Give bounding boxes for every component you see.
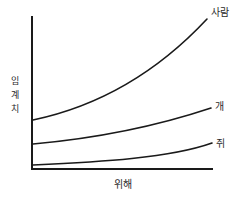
y-axis-label-char: 임 bbox=[9, 74, 21, 88]
curve-mouse bbox=[33, 143, 212, 165]
series-label-mouse: 쥐 bbox=[216, 139, 225, 149]
series-label-dog: 개 bbox=[215, 102, 224, 112]
series-label-human: 사람 bbox=[211, 8, 229, 18]
y-axis-label-char: 계 bbox=[9, 88, 21, 102]
threshold-harm-chart: 사람 개 쥐 임 계 치 위해 bbox=[0, 0, 245, 197]
curve-human bbox=[33, 19, 207, 120]
y-axis-label: 임 계 치 bbox=[9, 74, 21, 116]
y-axis-label-char: 치 bbox=[9, 102, 21, 116]
x-axis-label: 위해 bbox=[114, 176, 132, 191]
chart-canvas bbox=[0, 0, 245, 197]
